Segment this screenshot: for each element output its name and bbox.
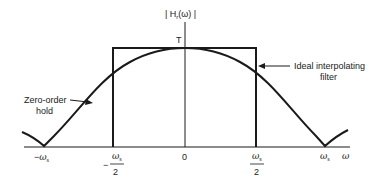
arrowhead-icon — [85, 99, 93, 105]
y-axis-label: | Hr(ω) | — [165, 9, 196, 20]
x-tick-pos-ws: ωs — [320, 151, 330, 162]
svg-text:−ωs: −ωs — [34, 152, 50, 163]
ideal-filter-label-2: filter — [320, 72, 337, 82]
x-tick-neg-ws-half: − ωs 2 — [103, 151, 124, 177]
x-tick-zero: 0 — [182, 152, 187, 162]
svg-text:2: 2 — [254, 167, 259, 177]
peak-label: T — [176, 35, 182, 45]
x-tick-neg-ws: −ωs — [34, 152, 50, 163]
svg-text:ωs: ωs — [320, 151, 330, 162]
ideal-filter-label-1: Ideal interpolating — [294, 61, 365, 71]
y-label-pre: | H — [165, 9, 176, 19]
y-label-post: (ω) | — [178, 9, 196, 19]
arrowhead-icon — [258, 63, 265, 69]
svg-text:ωs: ωs — [112, 151, 122, 162]
svg-text:−: − — [103, 160, 108, 170]
frequency-response-diagram: | Hr(ω) | T Ideal interpolating filter Z… — [0, 0, 390, 179]
svg-text:2: 2 — [113, 167, 118, 177]
svg-text:ωs: ωs — [252, 151, 262, 162]
x-axis-label: ω — [342, 151, 350, 161]
zoh-label-1: Zero-order — [24, 95, 67, 105]
zoh-label-2: hold — [36, 106, 53, 116]
x-tick-pos-ws-half: ωs 2 — [250, 151, 264, 177]
